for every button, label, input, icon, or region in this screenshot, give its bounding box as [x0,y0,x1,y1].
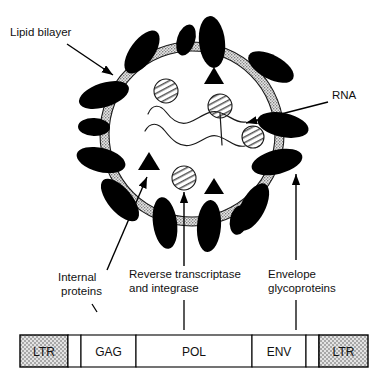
genome-segment-label-ltr-right: LTR [333,345,355,359]
envelope-glycoproteins-label-line-1: Envelope [268,268,316,280]
retrovirus-diagram: Lipid bilayer RNA Internal proteins Reve… [0,0,385,384]
envelope-glycoproteins-label-line-2: glycoproteins [268,282,336,294]
genome-segment-label-env: ENV [267,345,292,359]
enzyme-hatched-circle [154,79,178,103]
genome-segment-spacer-2[interactable] [306,335,319,367]
genome-segment-label-gag: GAG [95,345,122,359]
lipid-bilayer-label: Lipid bilayer [10,26,72,38]
reverse-transcriptase-label-line-1: Reverse transcriptase [129,268,241,280]
genome-segment-label-pol: POL [182,345,206,359]
genome-segment-label-ltr-left: LTR [33,345,55,359]
reverse-transcriptase-label-line-2: and integrase [129,282,199,294]
internal-proteins-label-line-1: Internal [58,271,96,283]
internal-proteins-label-line-2: proteins [61,285,102,297]
genome-segment-spacer-1[interactable] [68,335,81,367]
enzyme-hatched-circle [242,126,264,148]
provirus-genome-map: LTRGAGPOLENVLTR [20,335,368,367]
diagram-canvas: Lipid bilayer RNA Internal proteins Reve… [0,0,385,384]
enzyme-hatched-circle [172,166,196,190]
rna-label: RNA [332,89,357,101]
